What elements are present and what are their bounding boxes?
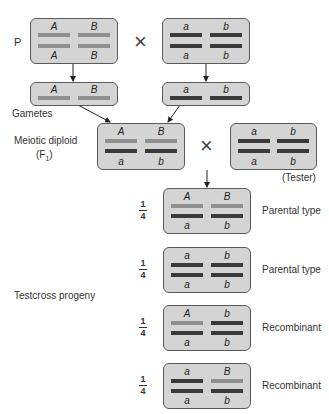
progeny-type-label: Recombinant	[262, 322, 321, 333]
chromosome-recessive	[171, 214, 203, 218]
allele: b	[212, 280, 242, 290]
chromosome-recessive	[171, 331, 203, 335]
allele: A	[39, 85, 69, 95]
progeny-box-recombinant-1: A b a b	[163, 305, 251, 351]
allele: b	[212, 221, 242, 231]
chromosome-recessive	[210, 96, 242, 100]
chromosome-dominant	[171, 204, 203, 208]
chromosome-recessive	[170, 44, 202, 48]
chromosome-dominant	[211, 379, 243, 383]
chromosome-dominant	[171, 321, 203, 325]
allele: a	[172, 367, 202, 377]
allele: a	[172, 396, 202, 406]
parent-right-box: a b a b	[162, 18, 250, 64]
chromosome-dominant	[78, 33, 110, 37]
allele: a	[239, 127, 269, 137]
allele: a	[171, 51, 201, 61]
allele: a	[172, 221, 202, 231]
chromosome-recessive	[171, 273, 203, 277]
allele: A	[39, 22, 69, 32]
progeny-box-parental-2: a b a b	[163, 247, 251, 293]
allele: A	[106, 127, 136, 137]
allele: a	[172, 338, 202, 348]
progeny-fraction: 14	[138, 259, 148, 280]
chromosome-dominant	[38, 44, 70, 48]
chromosome-dominant	[38, 96, 70, 100]
allele: b	[278, 127, 308, 137]
f1-label-close: )	[49, 149, 52, 160]
allele: a	[239, 157, 269, 167]
arrow-gamete-right-to-f1	[168, 105, 180, 122]
allele: a	[106, 157, 136, 167]
chromosome-dominant	[78, 96, 110, 100]
allele: B	[79, 22, 109, 32]
allele: A	[39, 51, 69, 61]
gamete-right-box: a b	[162, 82, 250, 106]
chromosome-dominant	[38, 33, 70, 37]
progeny-fraction: 14	[138, 375, 148, 396]
allele: B	[146, 127, 176, 137]
gamete-left-box: A B	[30, 82, 118, 106]
chromosome-recessive	[277, 149, 309, 153]
f1-label-line2: (F1)	[36, 149, 53, 162]
progeny-type-label: Recombinant	[262, 380, 321, 391]
progeny-type-label: Parental type	[262, 205, 321, 216]
chromosome-recessive	[170, 96, 202, 100]
allele: b	[211, 51, 241, 61]
allele: A	[172, 192, 202, 202]
allele: B	[79, 51, 109, 61]
allele: B	[212, 367, 242, 377]
chromosome-dominant	[105, 139, 137, 143]
allele: B	[79, 85, 109, 95]
allele: b	[211, 85, 241, 95]
chromosome-recessive	[277, 139, 309, 143]
chromosome-recessive	[211, 321, 243, 325]
chromosome-recessive	[211, 389, 243, 393]
allele: a	[172, 251, 202, 261]
tester-label: (Tester)	[282, 172, 316, 183]
chromosome-recessive	[211, 331, 243, 335]
chromosome-recessive	[145, 149, 177, 153]
chromosome-recessive	[171, 389, 203, 393]
chromosome-dominant	[145, 139, 177, 143]
chromosome-recessive	[211, 273, 243, 277]
cross-symbol: ×	[134, 31, 147, 53]
progeny-box-parental-1: A B a b	[163, 188, 251, 234]
tester-box: a b a b	[230, 123, 317, 170]
cross-symbol: ×	[200, 135, 213, 157]
progeny-fraction: 14	[138, 200, 148, 221]
chromosome-recessive	[105, 149, 137, 153]
chromosome-recessive	[211, 263, 243, 267]
progeny-fraction: 14	[138, 317, 148, 338]
progeny-type-label: Parental type	[262, 264, 321, 275]
allele: b	[278, 157, 308, 167]
progeny-box-recombinant-2: a B a b	[163, 363, 251, 409]
chromosome-recessive	[238, 139, 270, 143]
chromosome-dominant	[211, 204, 243, 208]
allele: b	[212, 309, 242, 319]
f1-box: A B a b	[97, 123, 185, 170]
parent-left-box: A B A B	[30, 18, 118, 64]
p-generation-label: P	[14, 36, 21, 48]
allele: b	[146, 157, 176, 167]
chromosome-recessive	[171, 263, 203, 267]
testcross-progeny-label: Testcross progeny	[14, 290, 95, 301]
chromosome-recessive	[210, 44, 242, 48]
allele: b	[212, 338, 242, 348]
chromosome-recessive	[210, 33, 242, 37]
gametes-label: Gametes	[12, 108, 53, 119]
chromosome-recessive	[171, 379, 203, 383]
allele: B	[212, 192, 242, 202]
chromosome-dominant	[78, 44, 110, 48]
chromosome-recessive	[170, 33, 202, 37]
f1-label-line1: Meiotic diploid	[14, 135, 77, 146]
allele: a	[171, 22, 201, 32]
arrow-gamete-left-to-f1	[78, 105, 110, 122]
chromosome-recessive	[238, 149, 270, 153]
allele: b	[212, 396, 242, 406]
allele: A	[172, 309, 202, 319]
allele: b	[212, 251, 242, 261]
chromosome-recessive	[211, 214, 243, 218]
allele: b	[211, 22, 241, 32]
allele: a	[171, 85, 201, 95]
